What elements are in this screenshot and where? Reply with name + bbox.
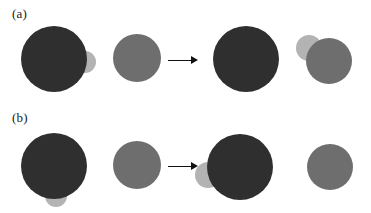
panel-a: (a) xyxy=(0,0,371,107)
panel-b-label: (b) xyxy=(12,111,28,124)
disc-a-dark-left xyxy=(21,26,87,92)
disc-a-dark-right xyxy=(213,26,279,92)
arrow-b-head-icon xyxy=(191,162,198,170)
arrow-b-line xyxy=(168,166,192,167)
panel-a-label: (a) xyxy=(12,7,27,20)
disc-a-medium-left xyxy=(113,34,161,82)
disc-b-medium-right xyxy=(307,144,353,190)
disc-b-medium-left xyxy=(113,141,161,189)
arrow-a-head-icon xyxy=(191,56,198,64)
figure-canvas: (a) (b) xyxy=(0,0,371,213)
disc-a-medium-right xyxy=(306,38,352,84)
disc-b-dark-right xyxy=(207,134,273,200)
arrow-a-line xyxy=(168,60,192,61)
panel-b: (b) xyxy=(0,107,371,213)
disc-b-dark-left xyxy=(21,133,87,199)
